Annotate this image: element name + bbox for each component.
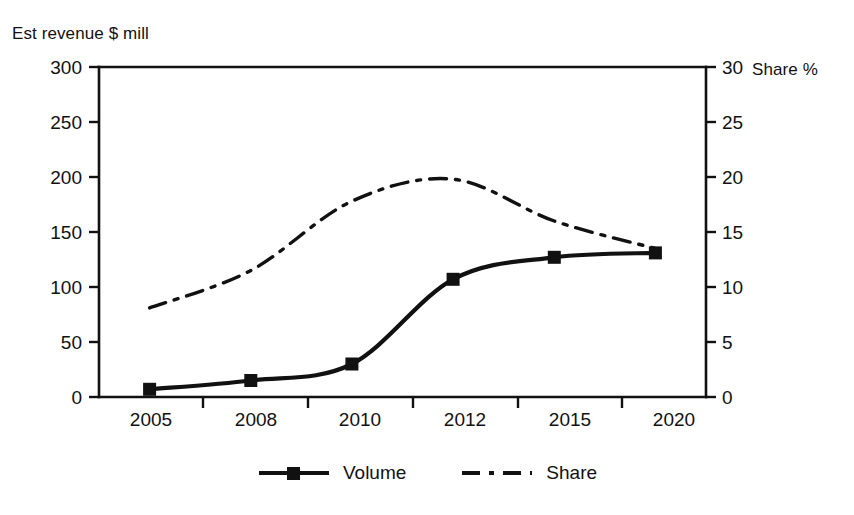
marker-volume-2012 xyxy=(447,273,460,286)
axis-frame xyxy=(99,67,706,397)
series-line-share xyxy=(150,179,656,308)
chart-container: Est revenue $ mill Share % 300 250 200 1… xyxy=(0,0,854,515)
dash-dot-line-icon xyxy=(460,464,534,482)
legend-label-share: Share xyxy=(546,462,597,484)
marker-volume-2008 xyxy=(244,374,257,387)
chart-legend: Volume Share xyxy=(0,462,854,484)
legend-item-share[interactable]: Share xyxy=(460,462,597,484)
right-axis-ticks xyxy=(706,67,716,397)
legend-label-volume: Volume xyxy=(343,462,406,484)
marker-volume-2010 xyxy=(345,358,358,371)
marker-volume-2015 xyxy=(548,251,561,264)
marker-volume-2020 xyxy=(649,246,662,259)
x-axis-ticks xyxy=(203,397,622,408)
left-axis-ticks xyxy=(89,67,99,397)
marker-volume-2005 xyxy=(143,383,156,396)
solid-line-square-marker-icon xyxy=(257,464,331,482)
plot-area xyxy=(0,0,854,515)
series-line-volume xyxy=(150,253,656,389)
legend-item-volume[interactable]: Volume xyxy=(257,462,406,484)
